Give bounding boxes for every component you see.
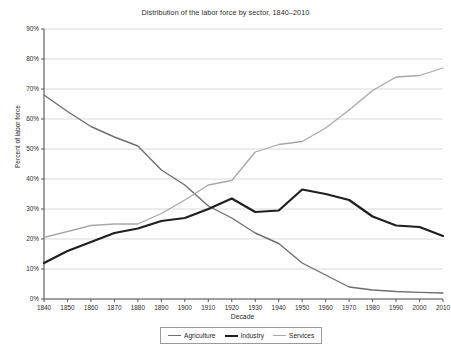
x-tick-label: 1950 (295, 304, 310, 311)
x-tick-label: 1920 (225, 304, 240, 311)
x-axis-ticks: 1840185018601870188018901900191019201930… (37, 299, 451, 311)
x-tick-label: 2010 (436, 304, 451, 311)
legend-label: Agriculture (184, 332, 216, 339)
y-axis-ticks: 0%10%20%30%40%50%60%70%80%90% (26, 25, 44, 302)
y-tick-label: 30% (26, 205, 39, 212)
x-tick-label: 1940 (272, 304, 287, 311)
x-tick-label: 1890 (154, 304, 169, 311)
legend-label: Industry (241, 332, 264, 339)
x-tick-label: 1900 (178, 304, 193, 311)
y-tick-label: 40% (26, 175, 39, 182)
legend-label: Services (289, 332, 314, 339)
x-tick-label: 1910 (201, 304, 216, 311)
gridlines (44, 29, 443, 299)
chart-container: Distribution of the labor force by secto… (0, 0, 451, 354)
x-tick-label: 1960 (319, 304, 334, 311)
x-tick-label: 1880 (131, 304, 146, 311)
y-tick-label: 20% (26, 235, 39, 242)
y-tick-label: 0% (30, 295, 40, 302)
x-tick-label: 1990 (389, 304, 404, 311)
y-axis-label: Percent of labor force (14, 87, 21, 187)
y-tick-label: 70% (26, 85, 39, 92)
y-tick-label: 80% (26, 55, 39, 62)
x-axis-label: Decade (40, 313, 445, 320)
x-tick-label: 1980 (365, 304, 380, 311)
y-tick-label: 90% (26, 25, 39, 32)
legend-swatch-services (273, 335, 286, 336)
legend-swatch-industry (225, 335, 238, 337)
x-tick-label: 1930 (248, 304, 263, 311)
x-tick-label: 1860 (84, 304, 99, 311)
series-line-agriculture (44, 95, 443, 293)
series-line-services (44, 68, 443, 238)
legend-item-agriculture[interactable]: Agriculture (168, 332, 216, 339)
legend-swatch-agriculture (168, 335, 181, 336)
x-tick-label: 2000 (412, 304, 427, 311)
x-tick-label: 1840 (37, 304, 52, 311)
x-tick-label: 1970 (342, 304, 357, 311)
legend-item-services[interactable]: Services (273, 332, 314, 339)
chart-legend: AgricultureIndustryServices (160, 327, 322, 344)
legend-item-industry[interactable]: Industry (225, 332, 264, 339)
data-series-group (44, 68, 443, 293)
x-tick-label: 1850 (60, 304, 75, 311)
y-tick-label: 10% (26, 265, 39, 272)
x-tick-label: 1870 (107, 304, 122, 311)
y-tick-label: 50% (26, 145, 39, 152)
plot-area: 0%10%20%30%40%50%60%70%80%90% 1840185018… (0, 0, 451, 354)
y-tick-label: 60% (26, 115, 39, 122)
